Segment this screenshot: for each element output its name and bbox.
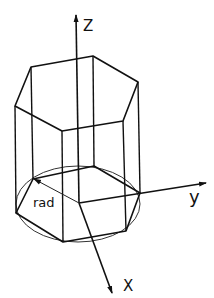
y-axis	[79, 183, 206, 203]
z-axis	[76, 15, 79, 203]
diagram-drawing	[0, 0, 214, 298]
y-axis-label: y	[189, 188, 200, 206]
x-axis	[79, 203, 112, 293]
radius-label: rad	[33, 196, 55, 209]
z-axis-label: Z	[83, 19, 93, 34]
hexagonal-prism-diagram: Z y X rad	[0, 0, 214, 298]
x-axis-label: X	[123, 279, 133, 294]
